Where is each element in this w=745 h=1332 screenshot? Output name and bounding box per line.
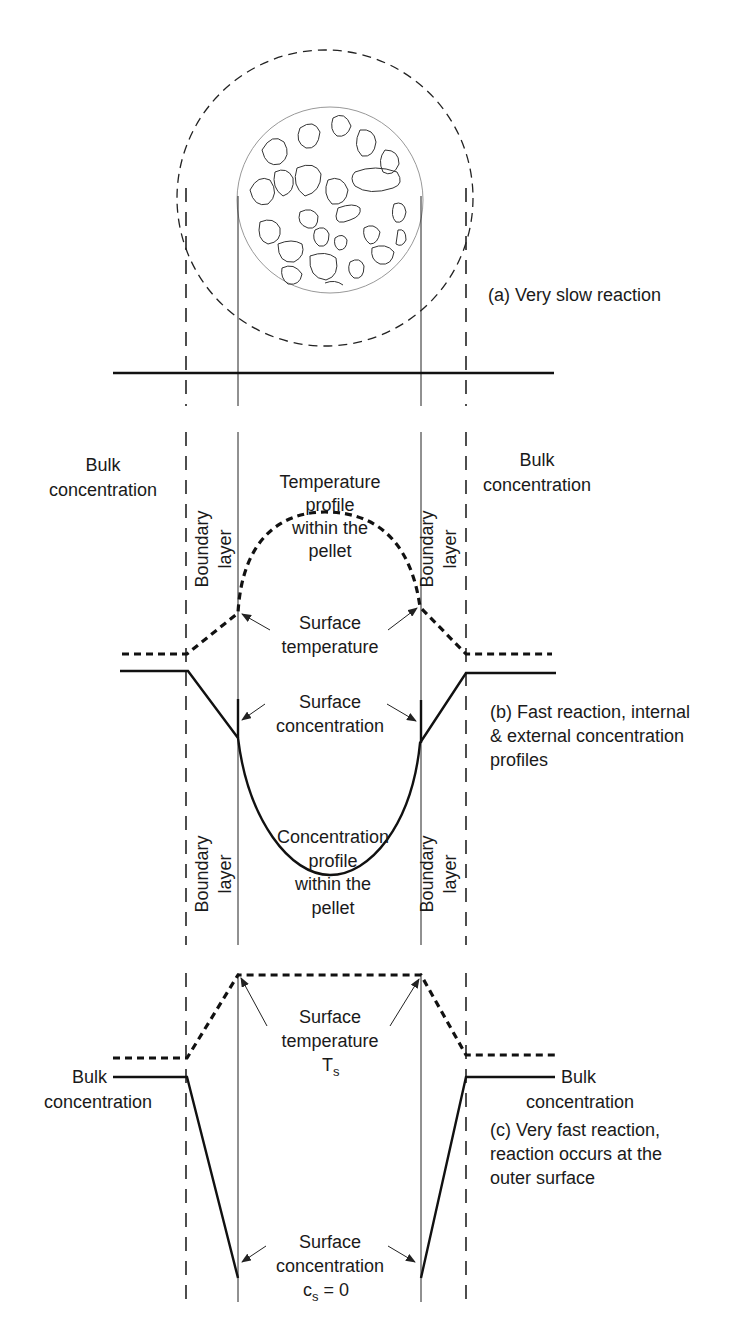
temperature-profile-label-3: within the [291,518,368,538]
surface-temperature-label: Surface [299,613,361,633]
arrow-surface-temperature-right [388,608,417,630]
boundary-layer-label-right-lower-2: layer [440,854,460,893]
caption-b-3: profiles [490,750,548,770]
caption-c: (c) Very fast reaction, [490,1120,660,1140]
arrow-surface-concentration-right [388,1246,415,1262]
bulk-label-right: Bulk [519,450,555,470]
boundary-layer-label-right-upper: Boundary [417,510,437,587]
caption-c-3: outer surface [490,1168,595,1188]
surface-concentration-label-2: concentration [276,1256,384,1276]
concentration-profile-label: Concentration [277,827,389,847]
boundary-layer-label-left-lower: Boundary [192,835,212,912]
surface-temperature-label-2: temperature [281,1031,378,1051]
boundary-layer-label-left-upper: Boundary [192,510,212,587]
arrow-surface-temperature-right [390,979,419,1026]
bulk-label-left-2: concentration [49,480,157,500]
caption-a: (a) Very slow reaction [488,285,661,305]
concentration-profile-label-3: within the [294,874,371,894]
bulk-label-right-2: concentration [483,475,591,495]
bulk-label-right-2: concentration [526,1092,634,1112]
caption-b: (b) Fast reaction, internal [490,702,690,722]
panel-a: (a) Very slow reaction [113,50,661,406]
bulk-label-right: Bulk [561,1067,597,1087]
concentration-profile-label-2: profile [308,851,357,871]
surface-concentration-label: Surface [299,692,361,712]
arrow-surface-concentration-left [242,704,265,720]
boundary-layer-circle [177,50,473,346]
temperature-profile-label-4: pellet [308,541,351,561]
pellet-outline [237,107,423,293]
arrow-surface-concentration-left [242,1246,266,1262]
caption-c-2: reaction occurs at the [490,1144,662,1164]
surface-concentration-label-2: concentration [276,716,384,736]
temperature-profile-label-2: profile [305,495,354,515]
porous-pellet [237,107,423,293]
boundary-layer-label-left-upper-2: layer [215,529,235,568]
boundary-layer-label-right-lower: Boundary [417,835,437,912]
arrow-surface-temperature-left [241,978,267,1026]
panel-c: Bulk concentration Bulk concentration Su… [44,973,662,1304]
caption-b-2: & external concentration [490,726,684,746]
boundary-layer-label-left-lower-2: layer [215,854,235,893]
surface-concentration-equation: cs = 0 [303,1280,349,1304]
surface-temperature-label: Surface [299,1007,361,1027]
concentration-profile-label-4: pellet [311,898,354,918]
arrow-surface-temperature-left [242,614,270,630]
catalyst-pellet-profiles-diagram: (a) Very slow reaction Bulk concentratio… [0,0,745,1332]
bulk-label-left: Bulk [72,1067,108,1087]
panel-b: Bulk concentration Bulk concentration Bo… [49,432,690,945]
pellet-grains-icon [250,115,406,285]
surface-temperature-label-2: temperature [281,637,378,657]
temperature-profile-label: Temperature [279,472,380,492]
arrow-surface-concentration-right [387,704,416,721]
surface-concentration-label: Surface [299,1232,361,1252]
surface-temperature-symbol: Ts [322,1055,340,1079]
bulk-label-left: Bulk [85,455,121,475]
bulk-label-left-2: concentration [44,1092,152,1112]
boundary-layer-label-right-upper-2: layer [440,529,460,568]
